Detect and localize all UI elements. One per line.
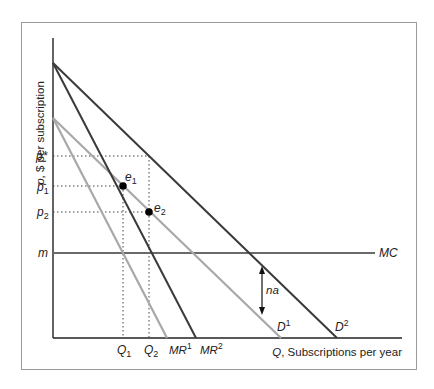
na-arrow bbox=[259, 266, 265, 315]
na-label: na bbox=[266, 284, 279, 296]
e2-label: e2 bbox=[154, 201, 166, 217]
q1-label: Q1 bbox=[117, 343, 131, 359]
mr2-curve bbox=[53, 63, 196, 338]
d1-curve bbox=[53, 118, 281, 338]
mc-label: MC bbox=[379, 246, 398, 260]
mr1-curve bbox=[53, 118, 167, 338]
e1-label: e1 bbox=[125, 170, 137, 186]
m-label: m bbox=[38, 246, 48, 260]
p1-label: p1 bbox=[36, 180, 49, 196]
mr2-label: MR2 bbox=[200, 341, 223, 356]
d2-label: D2 bbox=[335, 318, 349, 334]
x-axis-label: Q, Subscriptions per year bbox=[272, 346, 402, 358]
economics-diagram: p, $ per subscription p* p1 p2 m Q1 Q2 M… bbox=[0, 0, 434, 389]
mr1-label: MR1 bbox=[169, 341, 192, 356]
d1-label: D1 bbox=[277, 318, 291, 334]
y-axis-label: p, $ per subscription bbox=[34, 81, 46, 186]
p-star-label: p* bbox=[35, 149, 48, 163]
p2-label: p2 bbox=[36, 205, 49, 221]
e2-point bbox=[145, 208, 153, 216]
q2-label: Q2 bbox=[144, 343, 158, 359]
